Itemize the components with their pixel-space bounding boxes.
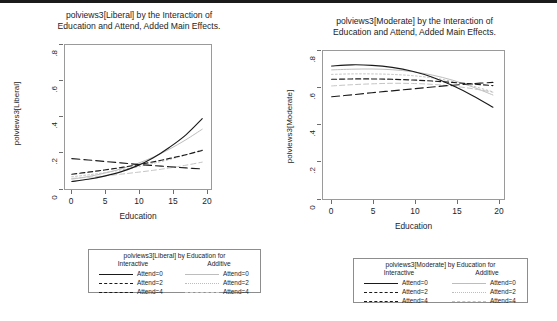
legend-item[interactable]: Attend=4 [452, 297, 532, 306]
panel-liberal: polviews3[Liberal] by the Interaction of… [0, 0, 278, 240]
y-tick-mark [317, 161, 321, 162]
panel-moderate: polviews3[Moderate] by the Interaction o… [272, 10, 557, 250]
y-tick-mark [59, 152, 63, 153]
series-line [332, 83, 493, 92]
line-sample-long-dash-icon [99, 292, 133, 296]
line-sample-long-dash-icon [364, 301, 398, 305]
legend-moderate: polviews3[Moderate] by Education for Int… [353, 258, 528, 303]
y-tick-mark [317, 124, 321, 125]
x-tick-mark [499, 200, 500, 204]
x-tick-mark [207, 190, 208, 194]
line-sample-dashed-icon [364, 292, 398, 296]
plot-area-moderate [322, 50, 505, 200]
y-tick-mark [59, 189, 63, 190]
x-tick-label: 20 [196, 196, 218, 206]
legend-liberal: polviews3[Liberal] by Education for Inte… [88, 249, 261, 293]
line-sample-solid-light-icon [185, 274, 219, 278]
x-tick-label: 5 [94, 196, 116, 206]
line-sample-dashed-light-icon [452, 301, 486, 305]
series-lines-moderate [322, 50, 505, 200]
x-tick-label: 0 [320, 206, 342, 216]
legend-title: polviews3[Moderate] by Education for [354, 261, 527, 268]
legend-item[interactable]: Attend=4 [99, 288, 179, 297]
y-tick-mark [59, 116, 63, 117]
x-axis-label-liberal: Education [64, 211, 212, 221]
y-axis-label-liberal: polviews3[Liberal] [12, 54, 21, 174]
line-sample-dashed-light-icon [185, 292, 219, 296]
y-tick-mark [317, 50, 321, 51]
x-tick-label: 15 [162, 196, 184, 206]
y-tick-mark [59, 44, 63, 45]
legend-column-interactive: Interactive [95, 260, 171, 267]
x-tick-mark [415, 200, 416, 204]
legend-item-label: Attend=0 [402, 279, 428, 286]
line-sample-solid-light-icon [452, 283, 486, 287]
line-sample-solid-icon [99, 274, 133, 278]
y-tick-label: .6 [50, 81, 59, 99]
x-tick-label: 0 [60, 196, 82, 206]
y-tick-label: .4 [50, 117, 59, 135]
legend-item-label: Attend=4 [223, 288, 249, 295]
line-sample-solid-icon [364, 283, 398, 287]
y-tick-label: 0 [308, 199, 317, 217]
y-tick-label: .4 [308, 125, 317, 143]
legend-item-label: Attend=2 [490, 288, 516, 295]
x-tick-mark [139, 190, 140, 194]
x-tick-mark [173, 190, 174, 194]
x-tick-mark [71, 190, 72, 194]
x-tick-label: 10 [404, 206, 426, 216]
series-line [72, 150, 202, 174]
y-tick-label: .8 [50, 45, 59, 63]
x-tick-label: 10 [128, 196, 150, 206]
line-sample-dashed-icon [99, 283, 133, 287]
legend-item-label: Attend=0 [223, 270, 249, 277]
x-tick-mark [457, 200, 458, 204]
legend-item-label: Attend=4 [490, 297, 516, 304]
legend-item-label: Attend=2 [402, 288, 428, 295]
y-tick-mark [317, 199, 321, 200]
line-sample-dotted-light-icon [452, 292, 486, 296]
y-tick-label: .2 [50, 153, 59, 171]
y-tick-mark [317, 87, 321, 88]
legend-item-label: Attend=0 [137, 270, 163, 277]
legend-item-label: Attend=4 [402, 297, 428, 304]
figure-canvas: polviews3[Liberal] by the Interaction of… [0, 0, 557, 321]
legend-item-label: Attend=2 [223, 279, 249, 286]
y-tick-label: 0 [50, 189, 59, 207]
y-tick-label: .2 [308, 162, 317, 180]
legend-title: polviews3[Liberal] by Education for [89, 252, 260, 259]
legend-item[interactable]: Attend=4 [185, 288, 265, 297]
series-line [332, 74, 493, 92]
chart-title-liberal: polviews3[Liberal] by the Interaction of… [0, 10, 278, 32]
legend-item-label: Attend=0 [490, 279, 516, 286]
legend-column-additive: Additive [181, 260, 257, 267]
y-axis-label-moderate: polviews3[Moderate] [285, 62, 294, 192]
x-tick-mark [105, 190, 106, 194]
legend-column-interactive: Interactive [360, 269, 438, 276]
y-tick-label: .6 [308, 88, 317, 106]
legend-item-label: Attend=2 [137, 279, 163, 286]
legend-column-additive: Additive [448, 269, 526, 276]
legend-item-label: Attend=4 [137, 288, 163, 295]
line-sample-dotted-light-icon [185, 283, 219, 287]
x-tick-label: 20 [488, 206, 510, 216]
series-lines-liberal [64, 44, 212, 190]
x-tick-label: 15 [446, 206, 468, 216]
x-tick-mark [373, 200, 374, 204]
legend-item[interactable]: Attend=4 [364, 297, 444, 306]
x-tick-mark [331, 200, 332, 204]
plot-area-liberal [64, 44, 212, 190]
x-axis-label-moderate: Education [322, 221, 505, 231]
chart-title-moderate: polviews3[Moderate] by the Interaction o… [272, 16, 557, 38]
y-tick-mark [59, 80, 63, 81]
series-line [332, 69, 493, 95]
x-tick-label: 5 [362, 206, 384, 216]
y-tick-label: .8 [308, 51, 317, 69]
